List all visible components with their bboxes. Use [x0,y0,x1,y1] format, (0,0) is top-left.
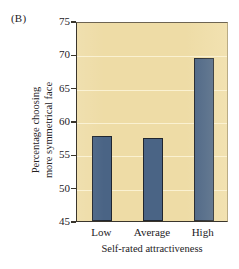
bar-low [92,136,112,221]
plot-inner [77,23,227,221]
y-tick-label-45: 45 [59,216,70,227]
panel-label: (B) [11,12,26,24]
y-tick-mark-65 [71,88,76,89]
bar-high [194,58,214,221]
x-tick-label-average: Average [134,226,170,238]
y-axis-title-line-2: more symmetrical face [42,81,55,177]
x-axis-title: Self-rated attractiveness [76,243,228,255]
y-tick-label-60: 60 [59,116,70,127]
y-tick-label-75: 75 [59,16,70,27]
y-tick-label-70: 70 [59,49,70,60]
gridline-70 [77,56,227,57]
bar-average [143,138,163,221]
y-axis-title-line-1: Percentage choosing [29,81,42,177]
y-tick-mark-50 [71,188,76,189]
x-tick-label-low: Low [91,226,111,238]
y-tick-mark-55 [71,155,76,156]
y-tick-mark-45 [71,221,76,222]
figure-panel-b: (B) Percentage choosing more symmetrical… [0,0,239,269]
x-tick-label-high: High [192,226,214,238]
y-tick-mark-60 [71,121,76,122]
y-tick-label-65: 65 [59,83,70,94]
y-tick-label-50: 50 [59,183,70,194]
y-tick-mark-75 [71,21,76,22]
plot-area [76,22,228,222]
y-axis-title: Percentage choosing more symmetrical fac… [22,42,62,217]
y-tick-label-55: 55 [59,149,70,160]
y-tick-mark-70 [71,55,76,56]
